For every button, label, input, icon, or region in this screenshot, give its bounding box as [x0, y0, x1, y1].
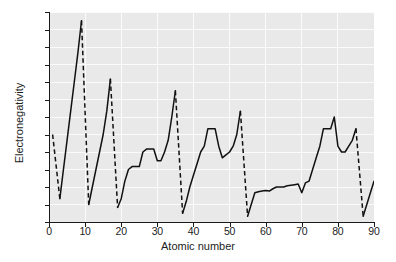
- series-solid-segment: [89, 79, 111, 204]
- x-axis-title: Atomic number: [0, 240, 396, 252]
- series-dashed-link: [240, 111, 247, 216]
- y-tick-mark: [45, 30, 49, 31]
- series-dashed-link: [356, 129, 363, 217]
- y-tick-mark: [45, 82, 49, 83]
- y-tick-mark: [45, 65, 49, 66]
- series-dashed-link: [82, 21, 89, 205]
- x-axis-line: [49, 222, 375, 223]
- series-dashed-link: [175, 91, 182, 214]
- y-tick-mark: [45, 152, 49, 153]
- y-tick-mark: [45, 170, 49, 171]
- y-axis-title: Electronegativity: [13, 48, 25, 198]
- y-tick-mark: [45, 117, 49, 118]
- y-tick-mark: [45, 205, 49, 206]
- x-tick-mark: [121, 223, 122, 227]
- y-tick-mark: [45, 187, 49, 188]
- x-tick-mark: [302, 223, 303, 227]
- x-tick-mark: [49, 223, 50, 227]
- data-series-layer: [49, 12, 374, 222]
- plot-area: [49, 12, 374, 222]
- y-axis-line: [49, 12, 50, 222]
- series-dashed-link: [53, 135, 60, 199]
- series-solid-segment: [183, 111, 241, 213]
- y-tick-mark: [45, 47, 49, 48]
- series-solid-segment: [363, 181, 374, 216]
- series-solid-segment: [60, 21, 82, 199]
- x-tick-mark: [193, 223, 194, 227]
- y-tick-mark: [45, 100, 49, 101]
- y-tick-mark: [45, 12, 49, 13]
- x-tick-mark: [230, 223, 231, 227]
- series-solid-segment: [248, 117, 356, 216]
- series-solid-segment: [118, 91, 176, 208]
- y-tick-mark: [45, 135, 49, 136]
- x-tick-mark: [338, 223, 339, 227]
- x-tick-mark: [157, 223, 158, 227]
- electronegativity-chart-figure: 0.60.91.21.51.82.12.42.73.03.33.63.94.2 …: [0, 0, 396, 262]
- x-tick-mark: [266, 223, 267, 227]
- x-tick-mark: [374, 223, 375, 227]
- series-dashed-link: [110, 79, 117, 207]
- x-tick-mark: [85, 223, 86, 227]
